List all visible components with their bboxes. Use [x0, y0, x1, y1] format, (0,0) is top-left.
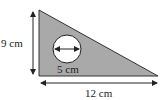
height-label: 9 cm	[1, 37, 23, 49]
base-label: 12 cm	[85, 87, 113, 99]
triangle-diagram: 9 cm 5 cm 12 cm	[0, 0, 162, 100]
diameter-label: 5 cm	[57, 63, 79, 75]
